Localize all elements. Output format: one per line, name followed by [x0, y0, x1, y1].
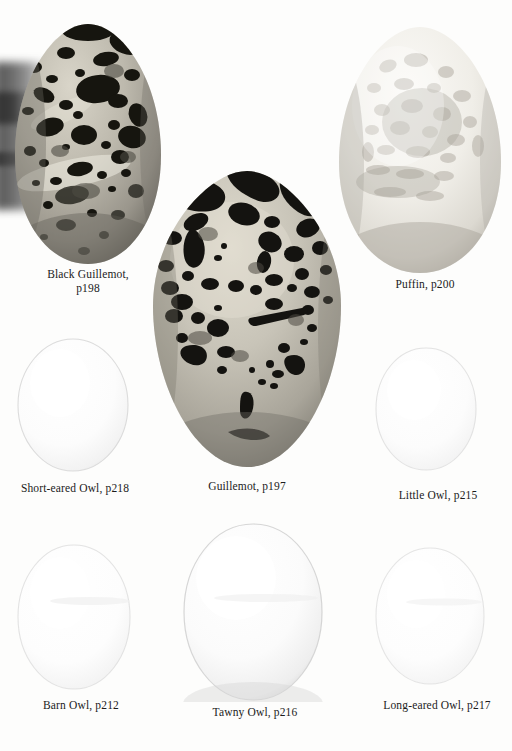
caption-puffin: Puffin, p200 [340, 278, 510, 292]
egg-specimen-black-guillemot [14, 23, 162, 265]
egg-plate: Black Guillemot, p198 [0, 0, 512, 751]
caption-little-owl: Little Owl, p215 [372, 489, 504, 503]
egg-specimen-little-owl [374, 346, 478, 472]
egg-image-long-eared-owl [374, 546, 486, 686]
egg-specimen-guillemot [152, 170, 342, 468]
egg-image-little-owl [374, 346, 478, 472]
caption-guillemot: Guillemot, p197 [162, 480, 332, 494]
egg-image-short-eared-owl [16, 337, 130, 473]
egg-image-guillemot [152, 170, 342, 468]
egg-image-black-guillemot [14, 23, 162, 265]
egg-image-barn-owl [16, 543, 132, 691]
egg-specimen-tawny-owl [182, 522, 324, 702]
caption-short-eared-owl: Short-eared Owl, p218 [2, 482, 148, 496]
caption-black-guillemot: Black Guillemot, p198 [8, 268, 168, 295]
caption-barn-owl: Barn Owl, p212 [8, 699, 154, 713]
caption-tawny-owl: Tawny Owl, p216 [180, 706, 330, 720]
egg-image-tawny-owl [182, 522, 324, 702]
caption-long-eared-owl: Long-eared Owl, p217 [362, 699, 512, 713]
egg-specimen-barn-owl [16, 543, 132, 691]
egg-image-puffin [338, 26, 502, 274]
egg-specimen-puffin [338, 26, 502, 274]
egg-specimen-long-eared-owl [374, 546, 486, 686]
egg-specimen-short-eared-owl [16, 337, 130, 473]
